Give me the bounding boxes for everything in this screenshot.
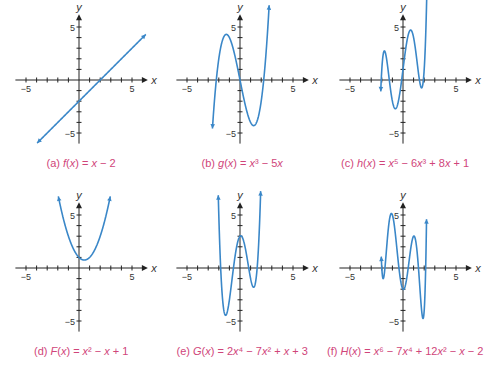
y-tick-label-neg5: −5 — [226, 317, 236, 327]
x-axis-label: x — [474, 74, 481, 86]
x-axis-label: x — [311, 74, 318, 86]
caption-f: (f) H(x) = x⁶ − 7x⁴ + 12x² − x − 2 — [327, 345, 483, 357]
y-tick-label-5: 5 — [394, 23, 399, 33]
x-tick-label-5: 5 — [129, 272, 134, 282]
y-tick-label-5: 5 — [70, 23, 75, 33]
caption-b: (b) g(x) = x³ − 5x — [202, 157, 283, 169]
caption-a: (a) f(x) = x − 2 — [47, 157, 116, 169]
x-tick-label-neg5: −5 — [21, 84, 31, 94]
caption-e: (e) G(x) = 2x⁴ − 7x² + x + 3 — [177, 345, 308, 357]
y-tick-label-5: 5 — [231, 23, 236, 33]
x-tick-label-neg5: −5 — [345, 84, 355, 94]
x-axis-label: x — [150, 74, 157, 86]
y-tick-label-neg5: −5 — [65, 317, 75, 327]
x-tick-label-5: 5 — [453, 84, 458, 94]
x-tick-label-neg5: −5 — [182, 84, 192, 94]
x-tick-label-5: 5 — [129, 84, 134, 94]
y-tick-label-5: 5 — [231, 211, 236, 221]
caption-c: (c) h(x) = x⁵ − 6x³ + 8x + 1 — [341, 157, 469, 169]
figure-background — [0, 0, 491, 368]
x-tick-label-5: 5 — [290, 84, 295, 94]
x-axis-label: x — [311, 262, 318, 274]
x-tick-label-neg5: −5 — [345, 272, 355, 282]
y-tick-label-neg5: −5 — [226, 129, 236, 139]
caption-d: (d) F(x) = x² − x + 1 — [34, 345, 128, 357]
y-tick-label-neg5: −5 — [389, 129, 399, 139]
y-tick-label-neg5: −5 — [389, 317, 399, 327]
x-tick-label-neg5: −5 — [182, 272, 192, 282]
x-tick-label-5: 5 — [290, 272, 295, 282]
x-tick-label-neg5: −5 — [21, 272, 31, 282]
function-graphs-figure: −555−5xy−555−5xy−555−5xy−555−5xy−555−5xy… — [0, 0, 491, 368]
x-axis-label: x — [474, 262, 481, 274]
y-tick-label-5: 5 — [394, 211, 399, 221]
x-axis-label: x — [150, 262, 157, 274]
y-tick-label-5: 5 — [70, 211, 75, 221]
y-tick-label-neg5: −5 — [65, 129, 75, 139]
x-tick-label-5: 5 — [453, 272, 458, 282]
